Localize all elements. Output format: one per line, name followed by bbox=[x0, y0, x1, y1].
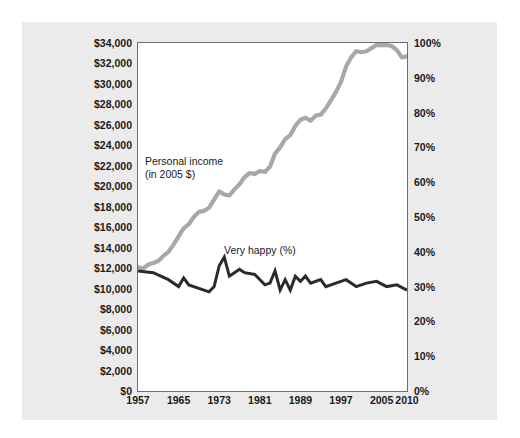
plot-series-svg bbox=[138, 43, 407, 391]
annotation-very-happy: Very happy (%) bbox=[224, 244, 296, 257]
y-axis-right-tick: 10% bbox=[414, 351, 474, 362]
y-axis-left-tick: $18,000 bbox=[70, 202, 132, 213]
y-axis-left-tick: $4,000 bbox=[70, 345, 132, 356]
y-axis-left-tick: $6,000 bbox=[70, 324, 132, 335]
y-axis-left-tick: $34,000 bbox=[70, 38, 132, 49]
annotation-personal-income: Personal income(in 2005 $) bbox=[145, 155, 223, 180]
y-axis-right-tick: 20% bbox=[414, 316, 474, 327]
x-axis-tick: 1957 bbox=[126, 395, 149, 406]
y-axis-right-tick: 70% bbox=[414, 142, 474, 153]
y-axis-left-tick: $2,000 bbox=[70, 365, 132, 376]
y-axis-right-tick: 30% bbox=[414, 281, 474, 292]
y-axis-left-tick: $12,000 bbox=[70, 263, 132, 274]
y-axis-right-labels: 100%90%80%70%60%50%40%30%20%10%0% bbox=[414, 0, 476, 438]
y-axis-left-labels: $34,000$32,000$30,000$28,000$26,000$24,0… bbox=[68, 0, 132, 438]
y-axis-right-tick: 60% bbox=[414, 177, 474, 188]
y-axis-left-tick: $16,000 bbox=[70, 222, 132, 233]
y-axis-right-tick: 100% bbox=[414, 38, 474, 49]
y-axis-right-tick: 80% bbox=[414, 107, 474, 118]
y-axis-left-tick: $14,000 bbox=[70, 242, 132, 253]
x-axis-tick: 1981 bbox=[248, 395, 271, 406]
y-axis-right-tick: 50% bbox=[414, 212, 474, 223]
y-axis-left-tick: $26,000 bbox=[70, 120, 132, 131]
y-axis-right-tick: 40% bbox=[414, 247, 474, 258]
y-axis-left-tick: $28,000 bbox=[70, 99, 132, 110]
x-axis-tick: 1989 bbox=[289, 395, 312, 406]
y-axis-left-tick: $10,000 bbox=[70, 283, 132, 294]
x-axis-tick: 2005 bbox=[370, 395, 393, 406]
annotation-income-line1: Personal income bbox=[145, 155, 223, 167]
y-axis-left-tick: $20,000 bbox=[70, 181, 132, 192]
y-axis-left-tick: $30,000 bbox=[70, 79, 132, 90]
x-axis-tick: 2010 bbox=[395, 395, 418, 406]
x-axis-tick: 1997 bbox=[329, 395, 352, 406]
x-axis-tick: 1973 bbox=[208, 395, 231, 406]
series-line-very-happy bbox=[138, 257, 407, 292]
x-axis-tick: 1965 bbox=[167, 395, 190, 406]
y-axis-left-tick: $8,000 bbox=[70, 304, 132, 315]
y-axis-left-tick: $24,000 bbox=[70, 140, 132, 151]
y-axis-left-tick: $32,000 bbox=[70, 58, 132, 69]
y-axis-left-tick: $22,000 bbox=[70, 161, 132, 172]
annotation-income-line2: (in 2005 $) bbox=[145, 168, 195, 180]
y-axis-right-tick: 90% bbox=[414, 73, 474, 84]
x-axis-labels: 19571965197319811989199720052010 bbox=[0, 395, 520, 415]
chart-container: $34,000$32,000$30,000$28,000$26,000$24,0… bbox=[0, 0, 520, 438]
